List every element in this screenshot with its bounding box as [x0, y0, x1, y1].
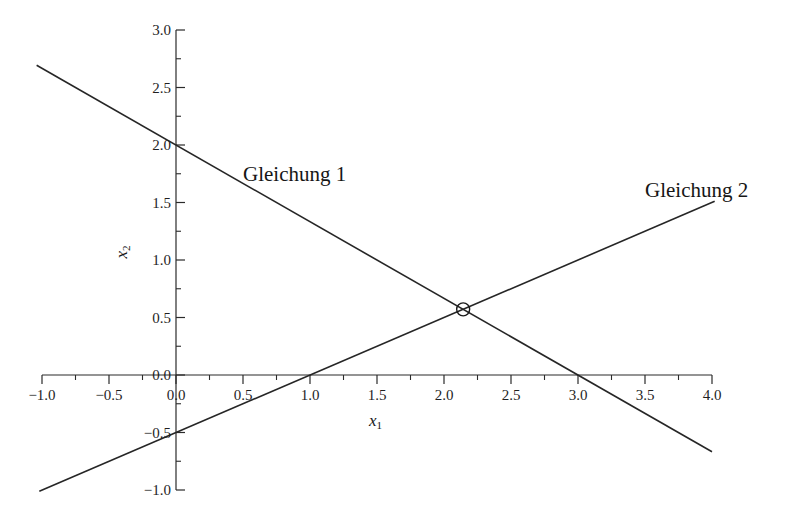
- y-axis-title: x2: [112, 245, 132, 258]
- series-label-gleichung-1: Gleichung 1: [243, 162, 346, 187]
- x-axis-tick-label: −0.5: [95, 387, 122, 404]
- x-axis-tick-label: −1.0: [28, 387, 55, 404]
- x-axis-title-sub: 1: [377, 419, 383, 431]
- y-axis-title-sub: 2: [120, 245, 132, 251]
- y-axis-tick-label: 1.0: [152, 252, 171, 269]
- x-axis-tick-label: 0.5: [234, 387, 253, 404]
- x-axis-tick-label: 3.5: [636, 387, 655, 404]
- y-axis-tick-label: 3.0: [152, 22, 171, 39]
- x-axis-tick-label: 3.0: [569, 387, 588, 404]
- y-axis-tick-label: −0.5: [144, 424, 171, 441]
- series-line-2: [39, 201, 714, 491]
- x-axis-tick-label: 4.0: [703, 387, 722, 404]
- x-axis-tick-label: 1.5: [368, 387, 387, 404]
- x-axis-tick-label: 2.0: [435, 387, 454, 404]
- chart-plot-area: [0, 0, 787, 532]
- y-axis-title-base: x: [112, 251, 131, 259]
- series-label-gleichung-2: Gleichung 2: [645, 178, 748, 203]
- y-axis-tick-label: 2.0: [152, 137, 171, 154]
- chart-figure: −1.0−0.50.00.51.01.52.02.53.03.54.0 3.02…: [0, 0, 787, 532]
- x-axis-title-base: x: [369, 411, 377, 430]
- y-axis-tick-label: 2.5: [152, 79, 171, 96]
- x-axis-tick-label: 1.0: [301, 387, 320, 404]
- x-axis-title: x1: [369, 411, 382, 431]
- y-axis-tick-label: 0.0: [152, 367, 171, 384]
- y-axis-tick-label: 0.5: [152, 309, 171, 326]
- y-axis-tick-label: −1.0: [144, 482, 171, 499]
- x-axis-tick-label: 2.5: [502, 387, 521, 404]
- x-axis-tick-label: 0.0: [167, 387, 186, 404]
- y-axis-tick-label: 1.5: [152, 194, 171, 211]
